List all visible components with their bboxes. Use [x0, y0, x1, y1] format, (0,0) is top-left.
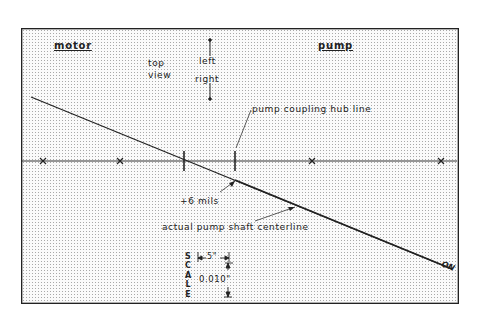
motor-label: motor: [54, 40, 92, 51]
scale-vertical-value: 0.010": [199, 274, 231, 284]
scale-letter: S: [184, 252, 192, 261]
scale-letter: L: [184, 280, 192, 289]
top-view-label-line2: view: [148, 70, 171, 80]
left-direction-label: left: [199, 56, 216, 66]
scale-horizontal-value: 5": [207, 252, 217, 261]
left-right-arrow-icon: [209, 39, 212, 101]
arrowhead-icon: [229, 181, 235, 187]
hub-line-leader: [236, 110, 251, 148]
scale-letter: C: [184, 261, 192, 270]
scale-letter: E: [184, 290, 192, 299]
shaft-label-leader: [255, 207, 295, 221]
arrowhead-icon: [288, 207, 295, 211]
pump-label: pump: [318, 40, 353, 51]
offset-label: +6 mils: [180, 196, 219, 206]
pump-coupling-hub-line-label: pump coupling hub line: [252, 104, 371, 114]
top-view-label-line1: top: [148, 58, 165, 68]
on-marker: ON: [440, 260, 456, 274]
scale-letter: A: [184, 271, 192, 280]
right-direction-label: right: [195, 74, 219, 84]
scale-title: S C A L E: [184, 252, 192, 299]
actual-pump-shaft-label: actual pump shaft centerline: [162, 222, 309, 232]
